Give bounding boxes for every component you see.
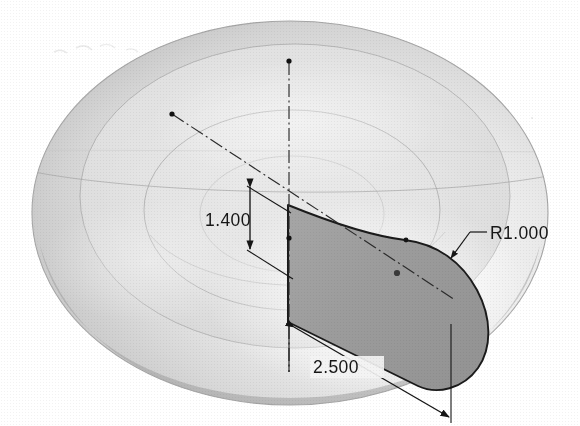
- drawing-svg: 1.400 2.500 R1.000: [0, 0, 580, 426]
- point-marker-axis-mid[interactable]: [394, 270, 400, 276]
- point-marker-tangency[interactable]: [404, 238, 409, 243]
- dimension-label-2500[interactable]: 2.500: [313, 357, 359, 377]
- point-marker-profile-origin[interactable]: [286, 235, 291, 240]
- dimension-label-r1000[interactable]: R1.000: [490, 223, 549, 243]
- dimension-label-1400[interactable]: 1.400: [205, 210, 251, 230]
- point-marker-axis-top[interactable]: [286, 58, 291, 63]
- point-marker-axis-upper-left[interactable]: [169, 111, 174, 116]
- cad-drawing-canvas: 1.400 2.500 R1.000: [0, 0, 580, 426]
- specular-highlight-upper: [150, 58, 450, 182]
